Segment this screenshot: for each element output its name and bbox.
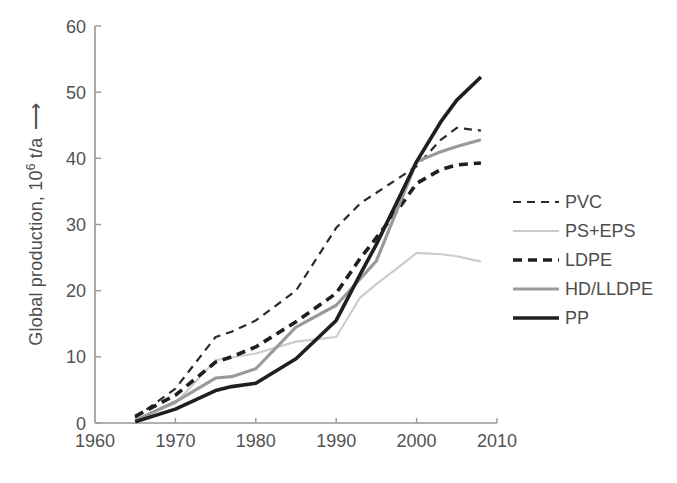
legend: PVC PS+EPS LDPE HD/LLDPE PP: [512, 192, 653, 328]
x-tick-label: 2000: [397, 431, 437, 451]
y-axis-title-units: t/a: [26, 138, 46, 164]
legend-item-pvc: PVC: [512, 192, 653, 212]
legend-label-hd-lldpe: HD/LLDPE: [565, 279, 653, 300]
y-axis-title-text: Global production, 10: [26, 170, 46, 345]
legend-line-sample-pvc: [512, 195, 560, 209]
legend-item-hd-lldpe: HD/LLDPE: [512, 279, 653, 299]
legend-item-pp: PP: [512, 308, 653, 328]
series-line-pp: [135, 77, 481, 422]
y-tick-label: 10: [66, 347, 86, 367]
legend-label-pvc: PVC: [565, 192, 602, 213]
x-tick-label: 1970: [155, 431, 195, 451]
x-tick-label: 1990: [316, 431, 356, 451]
x-tick-label: 1980: [236, 431, 276, 451]
y-tick-label: 60: [66, 17, 86, 37]
legend-label-ps-eps: PS+EPS: [565, 221, 636, 242]
plastics-production-figure: 0102030405060196019701980199020002010 Gl…: [0, 0, 677, 483]
x-tick-label: 2010: [477, 431, 517, 451]
y-tick-label: 30: [66, 215, 86, 235]
legend-line-sample-hd-lldpe: [512, 282, 560, 296]
y-tick-label: 40: [66, 149, 86, 169]
legend-line-sample-pp: [512, 311, 560, 325]
legend-line-sample-ps-eps: [512, 224, 560, 238]
series-line-ldpe: [135, 163, 481, 416]
y-tick-label: 20: [66, 281, 86, 301]
x-tick-label: 1960: [75, 431, 115, 451]
up-arrow-icon: ⟶: [25, 102, 46, 137]
legend-item-ldpe: LDPE: [512, 250, 653, 270]
legend-item-ps-eps: PS+EPS: [512, 221, 653, 241]
y-tick-label: 50: [66, 83, 86, 103]
legend-label-ldpe: LDPE: [565, 250, 612, 271]
y-axis-title: Global production, 106 t/a⟶: [24, 56, 46, 392]
series-line-pvc: [135, 128, 481, 418]
legend-label-pp: PP: [565, 308, 589, 329]
series-line-hd-lldpe: [135, 140, 481, 421]
y-axis-title-superscript: 6: [24, 163, 38, 170]
legend-line-sample-ldpe: [512, 253, 560, 267]
